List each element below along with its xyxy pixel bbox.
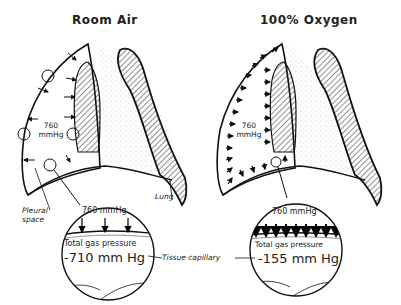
inset-value-room-air: -710 mm Hg <box>64 250 145 265</box>
tissue-capillary-label: Tissue capillary <box>162 253 220 262</box>
lung-pressure-value: 760 <box>36 121 66 130</box>
lung-label: Lung <box>155 192 173 201</box>
lung-pressure-unit: mmHg <box>36 130 66 139</box>
lung-pressure-oxygen: 760 mmHg <box>234 121 264 139</box>
collapsed-lung-left <box>74 62 100 152</box>
pleural-space-line1: Pleural <box>22 206 48 215</box>
lung-pressure-value: 760 <box>234 121 264 130</box>
pleural-space-label: Pleural space <box>22 206 48 224</box>
lung-pressure-unit: mmHg <box>234 130 264 139</box>
pleural-space-line2: space <box>22 215 48 224</box>
inset-caption-room-air: Total gas pressure <box>64 239 136 248</box>
inset-top-label-oxygen: 760 mmHg <box>272 207 317 216</box>
panel-title-oxygen: 100% Oxygen <box>260 13 358 27</box>
inset-top-label-room-air: 760 mmHg <box>82 206 127 215</box>
lung-pressure-room-air: 760 mmHg <box>36 121 66 139</box>
panel-title-room-air: Room Air <box>72 13 138 27</box>
inset-caption-oxygen: Total gas pressure <box>255 240 323 249</box>
inset-value-oxygen: -155 mm Hg <box>258 251 339 266</box>
